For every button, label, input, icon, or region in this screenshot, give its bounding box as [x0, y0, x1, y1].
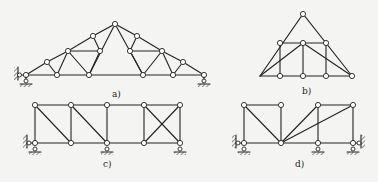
node	[350, 140, 355, 145]
truss-a-nodes	[23, 21, 206, 77]
support-pin-left-d	[232, 135, 250, 155]
node	[177, 102, 182, 107]
node	[278, 102, 283, 107]
support-pin-left-c	[23, 135, 41, 155]
node	[54, 72, 59, 77]
node	[278, 140, 283, 145]
node	[241, 102, 246, 107]
node	[141, 102, 146, 107]
support-roller-right-a	[198, 77, 210, 87]
node	[170, 72, 175, 77]
node	[104, 102, 109, 107]
truss-c: c)	[23, 102, 186, 169]
node	[277, 73, 282, 78]
truss-b: b)	[260, 11, 355, 96]
node	[90, 33, 95, 38]
truss-a: a)	[14, 21, 210, 99]
node	[134, 33, 139, 38]
node	[350, 102, 355, 107]
node	[180, 59, 185, 64]
node	[300, 73, 305, 78]
node	[127, 48, 132, 53]
panel-label-b: b)	[302, 86, 311, 96]
node	[44, 59, 49, 64]
truss-a-members	[26, 24, 204, 75]
support-roller-d	[312, 147, 324, 155]
node	[349, 73, 354, 78]
support-roller-c1	[101, 147, 113, 155]
node	[241, 140, 246, 145]
support-pin-left-a	[14, 67, 32, 87]
node	[300, 11, 305, 16]
node	[323, 40, 328, 45]
panel-label-d: d)	[295, 159, 304, 169]
node	[159, 48, 164, 53]
node	[68, 140, 73, 145]
node	[315, 140, 320, 145]
node	[112, 21, 117, 26]
node	[97, 48, 102, 53]
truss-diagram: a) b)	[0, 0, 378, 182]
node	[32, 102, 37, 107]
node	[177, 140, 182, 145]
panel-label-c: c)	[103, 159, 112, 169]
node	[300, 40, 305, 45]
node	[315, 102, 320, 107]
node	[277, 40, 282, 45]
node	[32, 140, 37, 145]
node	[65, 48, 70, 53]
node	[104, 140, 109, 145]
node	[140, 72, 145, 77]
node	[323, 73, 328, 78]
node	[141, 140, 146, 145]
node	[86, 72, 91, 77]
truss-d: d)	[232, 102, 365, 169]
support-pin-right-d	[347, 135, 365, 155]
node	[68, 102, 73, 107]
support-roller-c2	[174, 147, 186, 155]
panel-label-a: a)	[112, 89, 121, 99]
